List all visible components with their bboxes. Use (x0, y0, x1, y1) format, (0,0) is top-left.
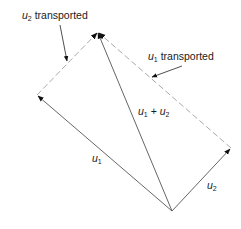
label-u1-plus-u2: u1 + u2 (138, 106, 169, 118)
label-sub: 2 (213, 185, 217, 192)
label-u2: u2 (207, 180, 217, 192)
label-u2-transported: u2 transported (22, 10, 88, 22)
vector-u2-transported (37, 33, 97, 95)
callout-arrow-u2-transported (60, 25, 67, 61)
label-sub: 1 (98, 158, 102, 165)
label-sub: 2 (166, 111, 170, 118)
label-u1: u1 (92, 153, 102, 165)
label-text: transported (32, 9, 88, 21)
label-operator: + (148, 105, 160, 117)
label-u1-transported: u1 transported (148, 51, 214, 63)
vector-u2 (172, 149, 230, 211)
callout-arrow-u1-transported (152, 66, 182, 77)
label-text: transported (158, 50, 214, 62)
vector-diagram (0, 0, 241, 229)
